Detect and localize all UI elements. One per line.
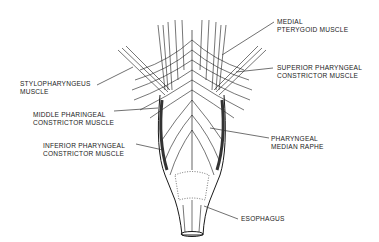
esophagus-opening	[181, 232, 203, 237]
label-esophagus: ESOPHAGUS	[241, 215, 285, 223]
leader-esophagus	[204, 206, 238, 219]
leader-stylopharyngeus	[97, 67, 133, 85]
leader-medial-pterygoid	[222, 22, 274, 55]
label-medial-pterygoid: MEDIAL PTERYGOID MUSCLE	[277, 18, 348, 34]
leader-middle-constrictor	[114, 108, 158, 111]
label-middle-constrictor: MIDDLE PHARINGEAL CONSTRICTOR MUSCLE	[33, 111, 114, 127]
label-inferior-constrictor: INFERIOR PHARYNGEAL CONSTRICTOR MUSCLE	[43, 142, 125, 158]
leader-pharyngeal-raphe	[210, 128, 269, 138]
label-stylopharyngeus: STYLOPHARYNGEUS MUSCLE	[20, 80, 91, 96]
label-pharyngeal-raphe: PHARYNGEAL MEDIAN RAPHE	[271, 135, 324, 151]
label-superior-constrictor: SUPERIOR PHARYNGEAL CONSTRICTOR MUSCLE	[277, 64, 362, 80]
leader-superior-constrictor	[236, 68, 273, 72]
